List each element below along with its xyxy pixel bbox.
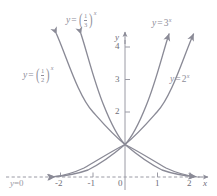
x-tick-label-0: 0 <box>118 179 123 188</box>
curve-label-two-exponent: x <box>187 72 190 79</box>
y-tick-label-2: 2 <box>115 107 120 116</box>
curve-label-one-third: y=(13)x <box>66 13 97 28</box>
curve-label-three-exponent: x <box>169 16 172 23</box>
curve-label-two-eq: = <box>174 74 181 84</box>
curve-label-one-half-eq: = <box>27 70 34 80</box>
y-tick-marks <box>125 47 130 112</box>
x-tick-label-2: 2 <box>187 179 192 188</box>
curve-label-two: y=2x <box>170 75 190 85</box>
right-paren: ) <box>46 70 50 81</box>
curve-label-three-eq: = <box>156 18 163 28</box>
x-tick-label-minus-1: -1 <box>88 179 96 188</box>
plot-canvas <box>0 0 217 196</box>
asymptote-label: y=0 <box>10 179 24 188</box>
curve-label-one-third-eq: = <box>70 15 77 25</box>
curve-label-one-third-numerator: 1 <box>84 13 87 20</box>
curve-one-third <box>57 34 197 177</box>
curve-label-one-half-denominator: 2 <box>41 77 44 84</box>
y-tick-label-4: 4 <box>115 42 120 51</box>
curve-label-one-half: y=(12)x <box>23 68 54 83</box>
x-axis-label: x <box>203 179 207 188</box>
x-tick-label-minus-2: -2 <box>55 179 63 188</box>
x-tick-label-1: 1 <box>155 179 160 188</box>
asymptote-label-value: 0 <box>19 178 24 188</box>
curve-label-one-third-exponent: x <box>94 10 97 16</box>
curve-label-three: y=3x <box>152 19 172 29</box>
curve-label-one-third-denominator: 3 <box>84 22 87 29</box>
curve-label-one-half-exponent: x <box>51 65 54 71</box>
curve-one-half <box>81 34 195 177</box>
left-paren: ( <box>79 15 83 26</box>
y-tick-label-3: 3 <box>115 75 120 84</box>
exponential-functions-figure: y=(13)x y=3x y=(12)x y=2x y x 2 3 4 -2 -… <box>0 0 217 196</box>
right-paren: ) <box>89 15 93 26</box>
curve-label-one-half-numerator: 1 <box>41 68 44 75</box>
left-paren: ( <box>36 70 40 81</box>
curve-two <box>55 34 169 177</box>
curve-three <box>54 34 194 177</box>
